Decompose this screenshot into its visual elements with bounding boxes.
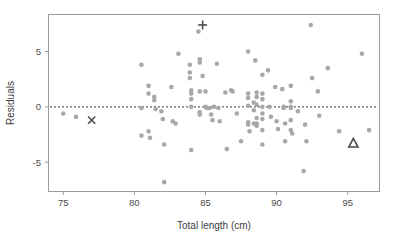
- data-point: [139, 106, 144, 111]
- data-point: [260, 111, 265, 116]
- data-point: [316, 89, 321, 94]
- data-point: [260, 72, 265, 77]
- data-point: [189, 97, 194, 102]
- data-point: [188, 76, 193, 81]
- data-point: [189, 105, 194, 110]
- data-point: [304, 139, 309, 144]
- x-axis-title: Total length (cm): [177, 220, 251, 231]
- chart-canvas: 7580859095 50-5 Total length (cm) Residu…: [0, 0, 400, 238]
- y-axis-title: Residuals: [5, 81, 16, 125]
- data-point: [209, 112, 214, 117]
- data-point: [162, 180, 167, 185]
- data-point: [260, 142, 265, 147]
- data-point: [61, 111, 66, 116]
- data-point: [197, 89, 202, 94]
- data-point: [239, 139, 244, 144]
- data-point: [301, 169, 306, 174]
- data-point: [173, 121, 178, 126]
- data-point: [367, 128, 372, 133]
- x-tick-label: 90: [271, 197, 282, 208]
- data-point: [260, 128, 265, 133]
- data-point: [247, 129, 252, 134]
- data-point: [217, 119, 222, 124]
- data-point: [289, 99, 294, 104]
- data-point: [276, 127, 281, 132]
- data-point: [310, 76, 315, 81]
- data-point: [169, 85, 174, 90]
- data-point: [176, 51, 181, 56]
- data-point: [210, 118, 215, 123]
- data-point: [260, 117, 265, 122]
- data-point: [223, 90, 228, 95]
- data-point: [188, 70, 193, 75]
- data-point: [188, 63, 193, 68]
- data-point: [74, 115, 79, 120]
- data-point: [266, 68, 271, 73]
- residual-scatter-plot: 7580859095 50-5 Total length (cm) Residu…: [0, 0, 400, 238]
- data-point: [267, 105, 272, 110]
- x-tick-label: 95: [342, 197, 353, 208]
- data-point: [160, 117, 165, 122]
- data-point: [197, 60, 202, 65]
- data-point: [246, 96, 251, 101]
- data-point: [296, 109, 301, 114]
- y-tick-label: -5: [33, 157, 41, 168]
- data-point: [254, 116, 259, 121]
- data-point: [189, 91, 194, 96]
- data-point: [146, 84, 151, 89]
- data-point: [290, 131, 295, 136]
- data-point: [162, 142, 167, 147]
- data-point: [159, 109, 164, 114]
- data-point: [325, 66, 330, 71]
- data-point: [234, 111, 239, 116]
- y-tick-label: 0: [36, 101, 41, 112]
- data-point: [337, 129, 342, 134]
- data-point: [260, 91, 265, 96]
- data-point: [260, 105, 265, 110]
- x-tick-label: 85: [200, 197, 211, 208]
- data-point: [253, 58, 258, 63]
- data-point: [273, 85, 278, 90]
- data-point: [283, 139, 288, 144]
- data-point: [289, 84, 294, 89]
- data-point: [289, 106, 294, 111]
- data-point: [260, 97, 265, 102]
- data-point: [246, 49, 251, 54]
- data-point: [203, 89, 208, 94]
- data-point: [189, 148, 194, 153]
- data-point: [152, 98, 157, 103]
- data-point: [303, 122, 308, 127]
- data-point: [246, 91, 251, 96]
- data-point: [254, 123, 259, 128]
- data-point: [148, 136, 153, 141]
- data-point: [200, 74, 205, 79]
- data-point: [212, 105, 217, 110]
- data-point: [281, 106, 286, 111]
- data-point: [317, 113, 322, 118]
- data-point: [139, 133, 144, 138]
- data-point: [139, 63, 144, 68]
- data-point: [360, 51, 365, 56]
- data-point: [280, 87, 285, 92]
- data-point: [308, 23, 313, 28]
- data-point: [216, 106, 221, 111]
- x-tick-label: 75: [58, 197, 69, 208]
- data-point: [289, 118, 294, 123]
- x-tick-label: 80: [129, 197, 140, 208]
- data-point: [207, 106, 212, 111]
- data-point: [254, 90, 259, 95]
- data-point: [146, 129, 151, 134]
- data-point: [246, 122, 251, 127]
- data-point: [230, 89, 235, 94]
- data-point: [246, 103, 251, 108]
- data-point: [215, 61, 220, 66]
- data-point: [146, 91, 151, 96]
- data-point: [197, 112, 202, 117]
- data-point: [225, 147, 230, 152]
- data-point: [254, 95, 259, 100]
- data-point: [254, 102, 259, 107]
- data-point: [274, 119, 279, 124]
- data-point: [196, 29, 201, 34]
- data-point: [269, 115, 274, 120]
- y-tick-label: 5: [36, 46, 41, 57]
